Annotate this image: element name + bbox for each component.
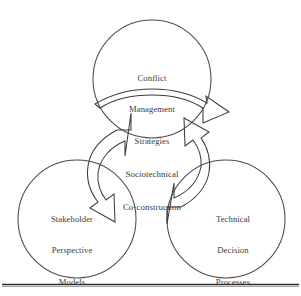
cycle-diagram-figure: Conflict Management Strategies Sociotech… — [0, 0, 301, 296]
arrow-top-to-left — [87, 113, 131, 222]
diagram-canvas — [0, 0, 301, 296]
circle-bottom-right — [167, 160, 285, 278]
circle-bottom-left — [18, 160, 136, 278]
circle-top — [93, 20, 211, 138]
